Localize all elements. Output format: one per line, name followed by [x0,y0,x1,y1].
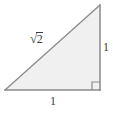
radicand-value: 2 [36,32,43,46]
vertical-leg-length-label: 1 [103,41,109,53]
geometry-figure-right-triangle: √2 1 1 [0,0,113,113]
horizontal-leg-length-label: 1 [50,95,56,107]
hypotenuse-length-label: √2 [30,32,43,46]
triangle-diagram-svg [0,0,113,113]
